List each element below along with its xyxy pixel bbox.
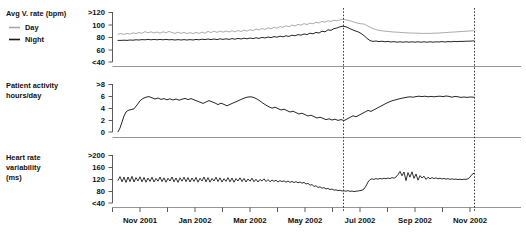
x-label-mar-2002: Mar 2002 xyxy=(233,216,267,225)
y-label-avg-5: <40 xyxy=(92,58,105,67)
y-label-hrv-4: 80 xyxy=(97,187,105,196)
panel-title-patient-activity-line2: hours/day xyxy=(6,91,42,100)
panel-heart-rate-variability: Heart rate variability (ms) >200 160 120… xyxy=(6,151,474,208)
series-patient-activity-line xyxy=(118,96,474,132)
y-label-act-1: >8 xyxy=(96,80,105,89)
panel-title-avg-v-rate: Avg V. rate (bpm) xyxy=(6,9,67,18)
panel-avg-ventricular-rate: Avg V. rate (bpm) Day Night >120 100 80 … xyxy=(6,8,521,67)
panel-title-patient-activity-line1: Patient activity xyxy=(6,81,59,90)
panel-title-hrv-line1: Heart rate xyxy=(6,153,41,162)
legend-label-day: Day xyxy=(25,23,39,32)
physiologic-trend-chart: Avg V. rate (bpm) Day Night >120 100 80 … xyxy=(0,0,526,236)
y-label-act-2: 6 xyxy=(101,92,105,101)
panel-title-hrv-line2: variability xyxy=(6,163,41,172)
x-label-nov-2001: Nov 2001 xyxy=(123,216,158,225)
y-label-hrv-5: <40 xyxy=(92,199,105,208)
series-night-line xyxy=(118,26,474,42)
x-label-may-2002: May 2002 xyxy=(288,216,323,225)
legend-label-night: Night xyxy=(25,35,44,44)
series-day-line xyxy=(118,19,474,34)
y-label-act-4: 2 xyxy=(101,116,105,125)
y-label-avg-4: 60 xyxy=(97,46,105,55)
panel-title-hrv-line3: (ms) xyxy=(6,173,22,182)
y-label-avg-2: 100 xyxy=(92,21,105,30)
y-label-act-3: 4 xyxy=(101,104,106,113)
y-label-avg-3: 80 xyxy=(97,33,105,42)
y-label-hrv-1: >200 xyxy=(88,151,105,160)
y-label-hrv-2: 160 xyxy=(92,163,105,172)
y-label-hrv-3: 120 xyxy=(92,175,105,184)
series-hrv-line xyxy=(118,171,474,191)
y-label-avg-1: >120 xyxy=(88,8,105,17)
x-label-jan-2002: Jan 2002 xyxy=(179,216,213,225)
chart-canvas: Avg V. rate (bpm) Day Night >120 100 80 … xyxy=(0,0,526,236)
x-label-sep-2002: Sep 2002 xyxy=(398,216,432,225)
x-axis: Nov 2001 Jan 2002 Mar 2002 May 2002 Jul … xyxy=(113,208,522,226)
x-label-jul-2002: Jul 2002 xyxy=(345,216,376,225)
panel-patient-activity: Patient activity hours/day >8 6 4 2 0 xyxy=(6,80,521,138)
legend-avg-v-rate: Day Night xyxy=(9,23,44,44)
x-label-nov-2002: Nov 2002 xyxy=(453,216,488,225)
y-label-act-5: 0 xyxy=(101,128,105,137)
